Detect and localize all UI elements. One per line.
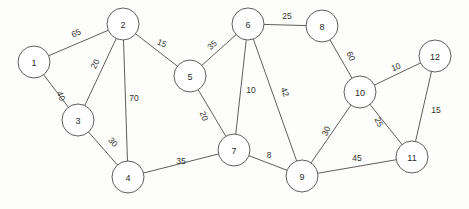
graph-edge-5-6 [202, 35, 236, 66]
graph-node-3[interactable]: 3 [62, 104, 94, 136]
graph-edge-2-3 [85, 38, 116, 105]
graph-edge-6-7 [236, 40, 246, 134]
edge-weight-2-4: 70 [129, 93, 139, 103]
edge-weight-2-3: 20 [88, 57, 101, 70]
edge-weight-3-4: 30 [106, 135, 120, 149]
graph-svg-surface: 6540207015303535201025428603045251015 12… [0, 0, 469, 209]
edge-weight-8-10: 60 [345, 50, 358, 63]
node-label-8: 8 [319, 22, 324, 32]
graph-node-7[interactable]: 7 [218, 134, 250, 166]
node-label-4: 4 [125, 173, 130, 183]
edge-weight-2-5: 15 [156, 37, 169, 50]
graph-edge-2-5 [136, 34, 178, 66]
edge-weight-5-7: 20 [198, 110, 211, 123]
graph-edge-6-9 [253, 39, 296, 161]
graph-node-1[interactable]: 1 [18, 46, 50, 78]
graph-diagram: 6540207015303535201025428603045251015 12… [0, 0, 469, 209]
graph-node-8[interactable]: 8 [306, 10, 338, 42]
edge-weight-9-11: 45 [352, 153, 362, 163]
edge-weight-5-6: 35 [205, 38, 219, 52]
edge-weight-11-12: 15 [431, 105, 441, 115]
edge-weight-10-11: 25 [372, 116, 385, 129]
node-label-11: 11 [407, 153, 416, 163]
graph-edge-6-8 [264, 24, 306, 25]
edge-weight-6-8: 25 [282, 11, 292, 21]
node-label-12: 12 [430, 52, 440, 62]
edge-weight-1-2: 65 [70, 26, 83, 39]
graph-edge-11-12 [416, 72, 432, 142]
node-label-5: 5 [187, 72, 192, 82]
node-label-6: 6 [245, 20, 250, 30]
graph-node-12[interactable]: 12 [419, 40, 451, 72]
edge-weight-9-10: 30 [319, 124, 332, 137]
node-label-10: 10 [355, 88, 365, 98]
edge-weight-6-7: 10 [246, 85, 256, 95]
node-label-7: 7 [231, 146, 236, 156]
node-label-2: 2 [120, 20, 125, 30]
graph-node-5[interactable]: 5 [174, 60, 206, 92]
edge-weight-7-9: 8 [267, 150, 272, 160]
graph-node-11[interactable]: 11 [396, 141, 428, 173]
graph-node-6[interactable]: 6 [232, 8, 264, 40]
node-label-9: 9 [299, 172, 304, 182]
node-label-3: 3 [75, 116, 80, 126]
edge-weight-6-9: 42 [279, 86, 292, 99]
graph-node-10[interactable]: 10 [344, 76, 376, 108]
graph-node-4[interactable]: 4 [112, 161, 144, 193]
edge-weight-4-7: 35 [176, 156, 186, 166]
node-label-1: 1 [31, 58, 36, 68]
graph-edge-2-4 [124, 40, 128, 161]
graph-node-9[interactable]: 9 [286, 160, 318, 192]
graph-node-2[interactable]: 2 [107, 8, 139, 40]
edge-weight-10-12: 10 [390, 60, 403, 73]
graph-edge-9-10 [311, 105, 351, 163]
